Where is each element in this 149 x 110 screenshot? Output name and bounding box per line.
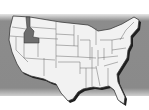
us-map bbox=[0, 0, 149, 110]
